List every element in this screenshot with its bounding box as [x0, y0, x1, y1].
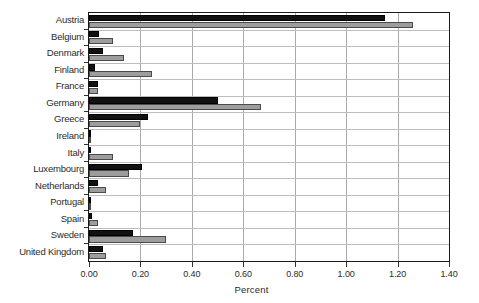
bar-gray — [89, 104, 261, 110]
y-axis-label-sweden: Sweden — [51, 230, 84, 240]
x-axis-tick — [346, 262, 347, 267]
bar-gray — [89, 170, 129, 176]
bar-black — [89, 164, 142, 170]
bar-row — [89, 46, 449, 63]
bar-black — [89, 213, 92, 219]
bar-row — [89, 195, 449, 212]
x-axis-tick-label: 0.20 — [132, 269, 149, 279]
plot-area — [88, 12, 450, 262]
bar-gray — [89, 22, 413, 28]
bar-black — [89, 147, 91, 153]
y-axis-label-france: France — [56, 81, 84, 91]
bar-gray — [89, 187, 106, 193]
bar-black — [89, 81, 98, 87]
y-axis-label-luxembourg: Luxembourg — [33, 164, 84, 174]
x-axis-title: Percent — [0, 284, 479, 295]
bar-black — [89, 48, 103, 54]
x-axis-tick-label: 0.60 — [235, 269, 252, 279]
bar-row — [89, 129, 449, 146]
x-axis-tick — [449, 262, 450, 267]
bar-black — [89, 197, 91, 203]
bar-black — [89, 15, 385, 21]
x-axis-tick-label: 0.40 — [183, 269, 200, 279]
bar-row — [89, 96, 449, 113]
bar-black — [89, 230, 133, 236]
bar-row — [89, 228, 449, 245]
x-axis-tick-label: 1.20 — [389, 269, 406, 279]
y-axis-label-greece: Greece — [54, 114, 84, 124]
bar-gray — [89, 88, 98, 94]
bar-gray — [89, 236, 166, 242]
y-axis-label-spain: Spain — [61, 214, 84, 224]
bar-row — [89, 79, 449, 96]
y-axis-label-netherlands: Netherlands — [35, 181, 84, 191]
x-axis-tick-label: 1.40 — [440, 269, 457, 279]
bar-black — [89, 246, 103, 252]
x-axis-tick — [89, 262, 90, 267]
bar-black — [89, 114, 148, 120]
x-axis-ticks — [0, 262, 479, 268]
bar-row — [89, 112, 449, 129]
y-axis-label-germany: Germany — [46, 98, 84, 108]
bar-row — [89, 211, 449, 228]
x-axis-tick-label: 0.80 — [286, 269, 303, 279]
bar-row — [89, 145, 449, 162]
bar-black — [89, 64, 95, 70]
x-axis-tick-label: 0.00 — [80, 269, 97, 279]
x-axis-title-text: Percent — [234, 284, 268, 295]
bar-gray — [89, 220, 98, 226]
bar-gray — [89, 38, 113, 44]
bar-row — [89, 162, 449, 179]
y-axis-label-denmark: Denmark — [47, 48, 84, 58]
bar-row — [89, 178, 449, 195]
x-axis-tick-labels: 0.000.200.400.600.801.001.201.40 — [0, 269, 479, 281]
x-axis-tick — [192, 262, 193, 267]
bar-gray — [89, 253, 106, 259]
x-axis-tick — [243, 262, 244, 267]
bar-gray — [89, 137, 91, 143]
bar-row — [89, 30, 449, 47]
bar-gray — [89, 71, 152, 77]
bar-black — [89, 180, 98, 186]
y-axis-label-belgium: Belgium — [51, 32, 84, 42]
bar-row — [89, 13, 449, 30]
y-axis-label-finland: Finland — [54, 65, 84, 75]
y-axis-label-austria: Austria — [56, 15, 84, 25]
y-axis-labels: AustriaBelgiumDenmarkFinlandFranceGerman… — [0, 12, 84, 262]
x-axis-tick — [140, 262, 141, 267]
bar-black — [89, 130, 91, 136]
y-axis-label-ireland: Ireland — [56, 131, 84, 141]
bar-black — [89, 31, 99, 37]
x-axis-tick-label: 1.00 — [338, 269, 355, 279]
bar-gray — [89, 154, 113, 160]
y-axis-label-italy: Italy — [68, 148, 84, 158]
x-axis-tick — [398, 262, 399, 267]
y-axis-label-united-kingdom: United Kingdom — [19, 247, 84, 257]
bar-gray — [89, 121, 140, 127]
bar-row — [89, 63, 449, 80]
bar-row — [89, 244, 449, 261]
bar-gray — [89, 55, 124, 61]
x-axis-tick — [295, 262, 296, 267]
bar-gray — [89, 203, 91, 209]
y-axis-label-portugal: Portugal — [50, 197, 84, 207]
bar-chart: AustriaBelgiumDenmarkFinlandFranceGerman… — [0, 0, 479, 303]
bar-black — [89, 97, 218, 103]
